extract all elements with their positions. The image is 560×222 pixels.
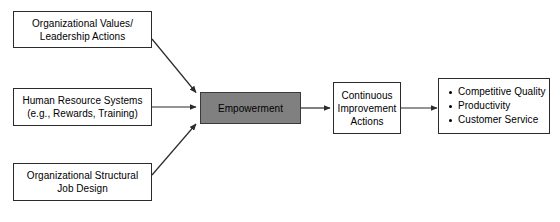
empowerment-diagram: Organizational Values/ Leadership Action…	[0, 0, 560, 222]
node-human-resource-systems-label: Human Resource Systems (e.g., Rewards, T…	[18, 94, 146, 120]
node-organizational-values-label: Organizational Values/ Leadership Action…	[28, 17, 137, 43]
node-empowerment-label: Empowerment	[214, 102, 287, 115]
node-organizational-structure-label: Organizational Structural Job Design	[23, 169, 142, 195]
node-organizational-structure: Organizational Structural Job Design	[13, 163, 152, 201]
connector-structure-to-empowerment	[152, 124, 196, 175]
node-continuous-improvement: Continuous Improvement Actions	[333, 82, 401, 134]
list-item: Customer Service	[449, 113, 546, 127]
node-human-resource-systems: Human Resource Systems (e.g., Rewards, T…	[13, 88, 152, 126]
node-empowerment: Empowerment	[200, 92, 301, 124]
list-item: Productivity	[449, 99, 546, 113]
node-continuous-improvement-label: Continuous Improvement Actions	[334, 89, 401, 128]
outcomes-list: Competitive Quality Productivity Custome…	[439, 85, 546, 127]
node-outcomes: Competitive Quality Productivity Custome…	[438, 78, 550, 134]
connector-values-to-empowerment	[152, 39, 196, 93]
list-item: Competitive Quality	[449, 85, 546, 99]
node-organizational-values: Organizational Values/ Leadership Action…	[13, 11, 152, 48]
